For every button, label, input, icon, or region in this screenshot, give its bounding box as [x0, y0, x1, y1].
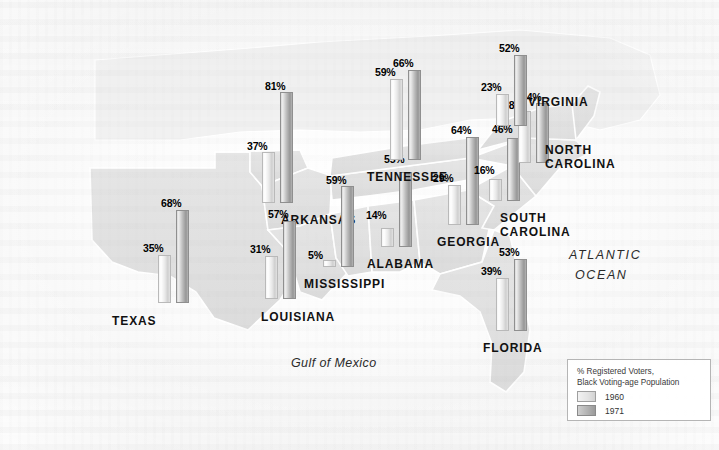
bar-value-louisiana-1971: 57%	[268, 208, 288, 220]
bar-virginia-1971	[514, 55, 527, 126]
state-label-virginia: VIRGINIA	[528, 95, 589, 109]
bar-value-tennessee-1971: 66%	[393, 57, 413, 69]
bar-texas-1971	[176, 210, 189, 303]
bar-mississippi-1971	[341, 186, 354, 267]
bar-alabama-1960	[381, 228, 394, 247]
legend-label-1960: 1960	[605, 392, 624, 402]
legend-title-line1: % Registered Voters,	[577, 367, 654, 376]
gulf-of-mexico-label: Gulf of Mexico	[291, 356, 377, 370]
bar-arkansas-1960	[262, 152, 275, 203]
bar-louisiana-1960	[265, 256, 278, 299]
bar-value-georgia-1960: 29%	[433, 172, 453, 184]
legend-item-1960: 1960	[577, 391, 702, 402]
bar-value-florida-1960: 39%	[481, 265, 501, 277]
map-figure: 35%68%TEXAS37%81%ARKANSAS31%57%LOUISIANA…	[0, 0, 719, 450]
legend-title: % Registered Voters, Black Voting-age Po…	[577, 367, 702, 388]
bar-value-texas-1971: 68%	[161, 197, 181, 209]
bar-louisiana-1971	[283, 221, 296, 299]
bar-mississippi-1960	[323, 260, 336, 267]
bar-tennessee-1971	[408, 70, 421, 160]
bar-texas-1960	[158, 255, 171, 303]
legend-item-1971: 1971	[577, 405, 702, 416]
bar-value-georgia-1971: 64%	[451, 124, 471, 136]
bar-virginia-1960	[496, 94, 509, 126]
bar-tennessee-1960	[390, 79, 403, 160]
bar-south-carolina-1960	[489, 179, 502, 201]
bar-value-arkansas-1971: 81%	[265, 80, 285, 92]
bar-value-virginia-1960: 23%	[481, 81, 501, 93]
state-label-alabama: ALABAMA	[367, 257, 434, 271]
legend: % Registered Voters, Black Voting-age Po…	[567, 359, 711, 421]
bar-georgia-1960	[448, 185, 461, 225]
bar-arkansas-1971	[280, 92, 293, 203]
bar-value-arkansas-1960: 37%	[247, 140, 267, 152]
bar-value-louisiana-1960: 31%	[250, 243, 270, 255]
state-label-louisiana: LOUISIANA	[261, 310, 335, 324]
bar-value-florida-1971: 53%	[499, 246, 519, 258]
bar-value-mississippi-1960: 5%	[308, 249, 323, 261]
state-label-georgia: GEORGIA	[437, 235, 500, 249]
atlantic-ocean-label: ATLANTIC OCEAN	[569, 245, 641, 285]
state-label-north-carolina: NORTHCAROLINA	[545, 143, 616, 171]
legend-title-line2: Black Voting-age Population	[577, 378, 679, 387]
bar-value-south-carolina-1960: 16%	[474, 164, 494, 176]
bar-georgia-1971	[466, 137, 479, 225]
state-label-texas: TEXAS	[112, 314, 157, 328]
bar-value-texas-1960: 35%	[143, 242, 163, 254]
bar-florida-1971	[514, 259, 527, 331]
bar-value-virginia-1971: 52%	[499, 42, 519, 54]
atlantic-ocean-label-line1: ATLANTIC	[569, 248, 641, 262]
legend-swatch-1960-icon	[577, 391, 596, 402]
bar-value-alabama-1960: 14%	[366, 209, 386, 221]
state-label-south-carolina: SOUTHCAROLINA	[500, 211, 571, 239]
bar-florida-1960	[496, 278, 509, 331]
state-label-mississippi: MISSISSIPPI	[304, 277, 385, 291]
atlantic-ocean-label-line2: OCEAN	[575, 265, 627, 285]
legend-swatch-1971-icon	[577, 405, 596, 416]
state-label-florida: FLORIDA	[483, 341, 543, 355]
legend-label-1971: 1971	[605, 406, 624, 416]
bar-value-mississippi-1971: 59%	[326, 174, 346, 186]
